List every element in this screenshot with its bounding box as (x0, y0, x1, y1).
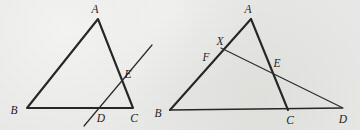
left-triangle-abc-outline (27, 19, 133, 108)
right-label-B: B (154, 107, 161, 119)
right-base-line-B-to-D (170, 108, 342, 110)
right-side-AB (170, 19, 251, 110)
right-label-A: A (243, 3, 252, 15)
right-side-AC (251, 19, 288, 110)
right-panel: A B C D E X F (154, 3, 347, 126)
geometry-figure-pair: A B C D E A B C D E X F (0, 0, 360, 130)
geometry-diagram-canvas: A B C D E A B C D E X F (0, 0, 360, 130)
right-cevian-line-X-to-D (221, 48, 343, 108)
left-label-A: A (90, 3, 99, 15)
right-label-D: D (338, 113, 348, 125)
right-label-X: X (215, 35, 224, 47)
right-label-E: E (272, 57, 280, 69)
left-label-D: D (96, 112, 106, 124)
right-label-F: F (201, 51, 210, 63)
left-panel: A B C D E (10, 3, 152, 126)
left-transversal-line (84, 45, 152, 126)
left-label-E: E (123, 68, 131, 80)
left-label-C: C (130, 112, 138, 124)
left-label-B: B (10, 104, 17, 116)
right-label-C: C (286, 114, 294, 126)
